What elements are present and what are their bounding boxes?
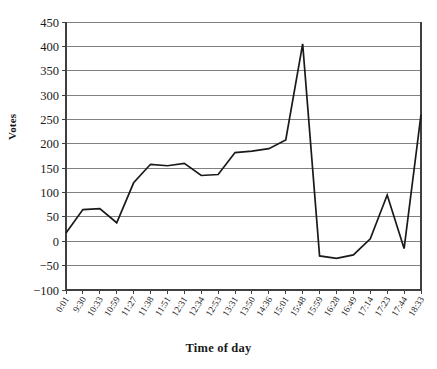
x-tick-label: 15:48: [288, 294, 308, 318]
x-tick-label: 10:59: [102, 294, 122, 318]
votes-over-time-chart: Votes 450400350300250200150100500−50−100…: [0, 0, 437, 369]
x-tick-label: 12:34: [187, 294, 207, 318]
x-tick-label: 15:01: [271, 294, 291, 318]
x-axis-title: Time of day: [0, 341, 437, 356]
y-tick-label: −50: [39, 259, 59, 273]
x-tick-label: 17:14: [356, 294, 376, 318]
y-axis-title: Votes: [6, 120, 18, 140]
y-tick-label: 350: [40, 64, 59, 78]
axis-lines: [66, 22, 421, 290]
x-tick-label: 18:33: [406, 294, 426, 318]
y-tick-label: 200: [40, 137, 59, 151]
x-tick-label: 13:50: [237, 294, 257, 318]
x-tick-label: 13:31: [221, 294, 241, 318]
x-tick-label: 10:33: [85, 294, 105, 318]
chart-plot-area: 450400350300250200150100500−50−100 0:019…: [0, 0, 437, 369]
y-tick-label: 0: [53, 235, 59, 249]
gridlines: [66, 22, 421, 290]
y-tick-label: −100: [33, 284, 59, 298]
y-axis-ticks: 450400350300250200150100500−50−100: [33, 16, 66, 298]
y-tick-label: 50: [47, 210, 60, 224]
x-tick-label: 17:44: [390, 294, 410, 318]
y-tick-label: 400: [40, 40, 59, 54]
x-tick-label: 17:23: [373, 294, 393, 318]
y-tick-label: 100: [40, 186, 59, 200]
y-tick-label: 300: [40, 89, 59, 103]
x-tick-label: 16:28: [322, 294, 342, 318]
x-tick-label: 14:36: [254, 294, 274, 318]
y-tick-label: 150: [40, 162, 59, 176]
x-tick-label: 12:53: [204, 294, 224, 318]
x-tick-label: 11:38: [136, 294, 156, 317]
x-tick-label: 11:51: [153, 294, 173, 317]
y-tick-label: 250: [40, 113, 59, 127]
y-tick-label: 450: [40, 16, 59, 30]
x-tick-label: 11:27: [119, 294, 139, 317]
data-series-line: [66, 44, 421, 258]
x-tick-label: 16:49: [339, 294, 359, 318]
x-tick-label: 12:31: [170, 294, 190, 318]
x-axis-ticks: 0:019:3010:3310:5911:2711:3811:5112:3112…: [54, 290, 426, 318]
votes-line-path: [66, 44, 421, 258]
x-tick-label: 15:59: [305, 294, 325, 318]
